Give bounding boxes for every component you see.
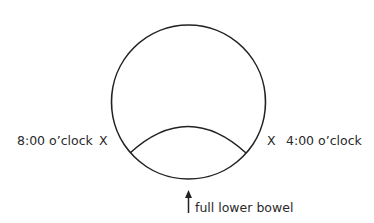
bottom-label: full lower bowel: [195, 200, 293, 215]
left-label: 8:00 o’clock: [17, 133, 93, 148]
right-marker: X: [267, 133, 276, 148]
uterus-circle: [112, 25, 266, 179]
lower-bowel-arc: [130, 127, 246, 154]
diagram-canvas: [0, 0, 374, 223]
left-marker: X: [99, 133, 108, 148]
right-label: 4:00 o’clock: [286, 133, 362, 148]
up-arrow-icon: [185, 190, 192, 213]
